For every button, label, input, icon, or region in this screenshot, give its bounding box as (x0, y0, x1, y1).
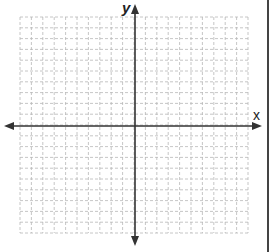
y-axis-label: y (122, 0, 130, 15)
x-axis-label: x (253, 108, 260, 122)
y-axis-down-arrow-icon (131, 236, 139, 246)
grid-lines (20, 17, 248, 233)
coordinate-plane: y x (0, 0, 271, 252)
page-border (267, 0, 269, 252)
x-axis-right-arrow-icon (252, 122, 262, 130)
coordinate-grid-svg (0, 0, 271, 252)
x-axis-left-arrow-icon (4, 122, 14, 130)
y-axis-up-arrow-icon (131, 4, 139, 14)
